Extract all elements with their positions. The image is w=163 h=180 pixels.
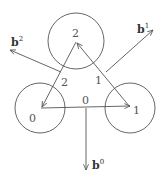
edge-2-arrow (42, 42, 76, 107)
edge-label-0: 0 (82, 94, 89, 107)
vector-label-b0: b0 (92, 158, 104, 172)
edge-label-1: 1 (95, 74, 102, 87)
vector-label-b1: b1 (137, 22, 149, 36)
node-label-1: 1 (133, 104, 140, 117)
node-circle-2 (48, 13, 104, 69)
graph-diagram: 2 0 1 0 1 2 b2 b1 b0 (0, 0, 163, 180)
node-label-0: 0 (29, 112, 36, 125)
vector-b2-arrow (10, 50, 61, 72)
edge-label-2: 2 (61, 76, 68, 89)
node-label-2: 2 (72, 27, 79, 40)
node-circle-1 (105, 83, 155, 133)
vector-label-b2: b2 (11, 35, 23, 49)
vector-b1-arrow (106, 30, 153, 72)
